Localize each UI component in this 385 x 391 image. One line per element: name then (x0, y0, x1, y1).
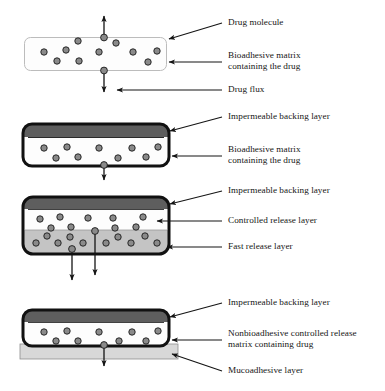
label-bioadhesive-matrix-line2: containing the drug (228, 61, 300, 72)
drug-molecule (112, 225, 118, 231)
label-drug-molecule: Drug molecule (228, 17, 284, 28)
label-mucoadhesive-layer: Mucoadhesive layer (228, 365, 303, 376)
panel-1-group (25, 16, 223, 92)
panel-3-impermeable-backing-layer (23, 197, 169, 209)
drug-delivery-system-diagram: Drug molecule Bioadhesive matrix contain… (0, 0, 385, 391)
drug-molecule (92, 228, 99, 235)
panel-1-leader-drug-molecule (169, 23, 222, 39)
drug-molecule (75, 338, 81, 344)
drug-molecule (44, 233, 50, 239)
label-fast-release-layer: Fast release layer (228, 241, 293, 252)
label-impermeable-backing-layer-panel3: Impermeable backing layer (228, 185, 330, 196)
drug-molecule (154, 240, 160, 246)
drug-molecule (85, 215, 91, 221)
drug-molecule (76, 58, 82, 64)
drug-molecule (37, 216, 43, 222)
drug-molecule (129, 329, 135, 335)
drug-molecule (57, 214, 63, 220)
drug-molecule (68, 224, 74, 230)
drug-molecule (64, 144, 70, 150)
drug-molecule (53, 338, 59, 344)
drug-molecule (129, 145, 135, 151)
label-drug-flux: Drug flux (228, 84, 264, 95)
panel-4-leader-mucoadhesive-layer (172, 354, 222, 371)
label-nonbioadhesive-matrix-line1: Nonbioadhesive controlled release (228, 328, 357, 339)
label-impermeable-backing-layer-panel2: Impermeable backing layer (228, 111, 330, 122)
drug-molecule (103, 240, 109, 246)
drug-molecule (63, 47, 69, 53)
label-bioadhesive-matrix-panel2-line1: Bioadhesive matrix (228, 144, 301, 155)
drug-molecule (142, 233, 148, 239)
drug-molecule (75, 38, 81, 44)
drug-molecule (75, 154, 81, 160)
panel-3-group (23, 191, 222, 280)
drug-molecule (53, 155, 59, 161)
label-nonbioadhesive-matrix-line2: matrix containing drug (228, 339, 313, 350)
drug-molecule (48, 225, 54, 231)
drug-molecule (133, 224, 139, 230)
drug-molecule (155, 328, 161, 334)
drug-molecule (101, 34, 108, 41)
drug-molecule (41, 329, 47, 335)
drug-molecule (80, 240, 86, 246)
panel-4-impermeable-backing-layer (23, 310, 169, 322)
label-bioadhesive-matrix-panel2-line2: containing the drug (228, 155, 300, 166)
panel-4-group (20, 303, 222, 371)
drug-molecule (115, 234, 121, 240)
drug-molecule (64, 328, 70, 334)
drug-molecule (130, 49, 136, 55)
drug-molecule (96, 145, 102, 151)
drug-molecule (67, 234, 73, 240)
drug-molecule (41, 145, 47, 151)
panel-3-layers (23, 197, 169, 254)
drug-molecule (54, 58, 60, 64)
drug-molecule (143, 338, 149, 344)
drug-molecule (96, 329, 102, 335)
drug-molecule (101, 342, 108, 349)
drug-molecule (101, 162, 108, 169)
drug-molecule (145, 59, 151, 65)
drug-molecule (41, 49, 47, 55)
panel-2-impermeable-backing-layer (23, 124, 169, 137)
drug-molecule (110, 215, 116, 221)
panel-3-leader-impermeable-backing-layer (170, 191, 222, 204)
drug-molecule (128, 240, 134, 246)
drug-molecule (113, 40, 119, 46)
panel-2-leader-impermeable-backing-layer (170, 117, 222, 131)
panel-4-leader-impermeable-backing-layer (170, 303, 222, 317)
drug-molecule (96, 49, 102, 55)
drug-molecule (101, 67, 108, 74)
label-bioadhesive-matrix-line1: Bioadhesive matrix (228, 50, 301, 61)
drug-molecule (155, 144, 161, 150)
drug-molecule (143, 154, 149, 160)
drug-molecule (69, 246, 76, 253)
drug-molecule (140, 214, 146, 220)
drug-molecule (33, 240, 39, 246)
drug-molecule (55, 240, 61, 246)
drug-molecule (116, 338, 122, 344)
label-controlled-release-layer: Controlled release layer (228, 215, 317, 226)
label-impermeable-backing-layer-panel4: Impermeable backing layer (228, 297, 330, 308)
panel-2-group (23, 117, 222, 180)
drug-molecule (115, 155, 121, 161)
drug-molecule (154, 48, 160, 54)
